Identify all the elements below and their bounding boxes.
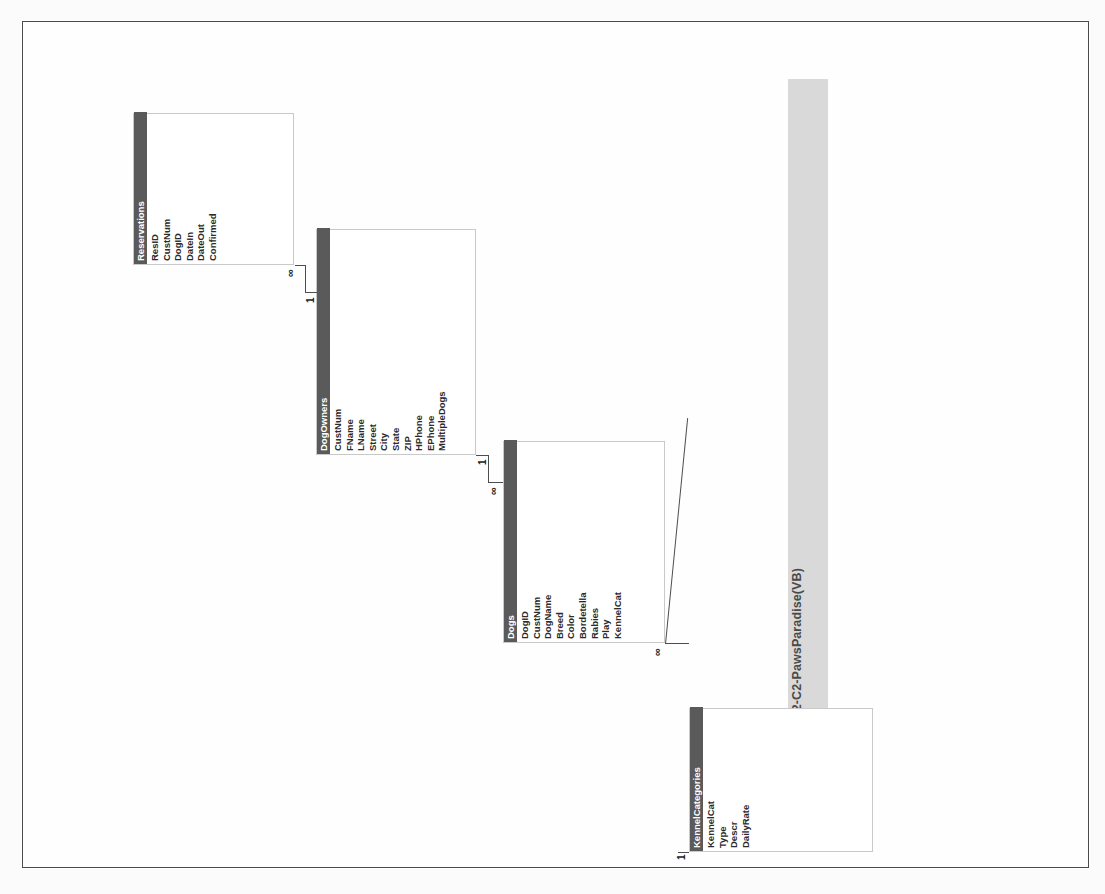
field-kennelcat: KennelCat — [612, 442, 624, 639]
field-list-dogs: DogID CustNum DogName Breed Color Bordet… — [517, 442, 623, 642]
relationship-cardinality-one: 1 — [306, 297, 315, 303]
field-state: State — [390, 230, 402, 451]
field-type: Type — [717, 709, 729, 848]
relationship-cardinality-one: 1 — [478, 459, 487, 465]
relationship-line-segment — [665, 418, 688, 644]
field-resid: ResID — [149, 114, 161, 261]
field-breed: Breed — [554, 442, 566, 639]
field-list-dogowners: CustNum FName LName Street City State ZI… — [330, 230, 448, 454]
field-dogid: DogID — [519, 442, 531, 639]
relationship-line-segment — [665, 643, 689, 644]
field-dateout: DateOut — [195, 114, 207, 261]
relationship-line-segment — [305, 292, 317, 293]
field-dailyrate: DailyRate — [740, 709, 752, 848]
field-custnum: CustNum — [531, 442, 543, 639]
field-custnum: CustNum — [161, 114, 173, 261]
field-play: Play — [600, 442, 612, 639]
field-custnum: CustNum — [332, 230, 344, 451]
relationship-cardinality-many: ∞ — [286, 269, 295, 277]
field-bordetella: Bordetella — [577, 442, 589, 639]
table-dogs[interactable]: Dogs DogID CustNum DogName Breed Color B… — [503, 441, 665, 643]
table-kennelcategories[interactable]: KennelCategories KennelCat Type Descr Da… — [689, 708, 873, 852]
field-confirmed: Confirmed — [207, 114, 219, 261]
field-city: City — [378, 230, 390, 451]
field-list-kennelcategories: KennelCat Type Descr DailyRate — [703, 709, 751, 851]
field-kennelcat: KennelCat — [705, 709, 717, 848]
field-hphone: HPhone — [413, 230, 425, 451]
field-color: Color — [565, 442, 577, 639]
table-title-kennelcategories: KennelCategories — [690, 707, 703, 851]
table-title-dogs: Dogs — [504, 440, 517, 642]
field-datein: DateIn — [184, 114, 196, 261]
field-lname: LName — [355, 230, 367, 451]
field-street: Street — [367, 230, 379, 451]
table-dogowners[interactable]: DogOwners CustNum FName LName Street Cit… — [316, 229, 476, 455]
field-descr: Descr — [728, 709, 740, 848]
relationship-cardinality-one: 1 — [677, 854, 686, 860]
field-dogid: DogID — [172, 114, 184, 261]
table-reservations[interactable]: Reservations ResID CustNum DogID DateIn … — [133, 113, 294, 265]
relationships-diagram-canvas: Relationships for AL2-C2-PawsParadise(VB… — [23, 22, 1090, 869]
table-title-reservations: Reservations — [134, 112, 147, 264]
field-rabies: Rabies — [589, 442, 601, 639]
table-title-dogowners: DogOwners — [317, 228, 330, 454]
report-page: Relationships for AL2-C2-PawsParadise(VB… — [22, 21, 1089, 868]
relationship-line-segment — [488, 455, 489, 483]
field-zip: ZIP — [402, 230, 414, 451]
relationship-cardinality-many: ∞ — [653, 648, 662, 656]
field-multipledogs: MultipleDogs — [436, 230, 448, 451]
relationship-line-segment — [295, 265, 305, 266]
relationship-line-segment — [476, 455, 488, 456]
field-ephone: EPhone — [425, 230, 437, 451]
field-dogname: DogName — [542, 442, 554, 639]
relationship-cardinality-many: ∞ — [489, 487, 498, 495]
relationship-line-segment — [678, 852, 689, 853]
field-fname: FName — [344, 230, 356, 451]
field-list-reservations: ResID CustNum DogID DateIn DateOut Confi… — [147, 114, 219, 264]
relationship-line-segment — [488, 482, 503, 483]
relationship-line-segment — [305, 265, 306, 293]
